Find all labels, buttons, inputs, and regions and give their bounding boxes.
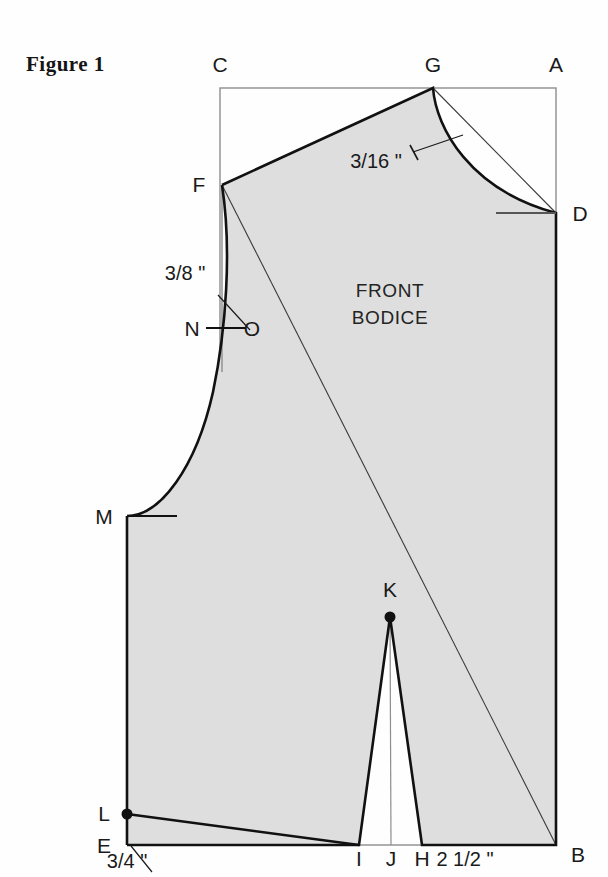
vertex-label-o: O [244,317,260,340]
dimension-label-hem-rise: 3/4 " [107,850,147,872]
vertex-label-k: K [383,578,397,601]
vertex-label-n: N [184,317,199,340]
front-bodice-shape [127,88,556,845]
vertex-label-j: J [386,847,397,870]
vertex-label-b: B [571,843,585,866]
dimension-label-shoulder-ease: 3/16 " [350,150,402,172]
vertex-label-m: M [95,505,113,528]
vertex-label-f: F [193,173,206,196]
point-marker-l [122,809,133,820]
vertex-label-c: C [212,53,227,76]
figure-container: Figure 1 [0,0,608,877]
pattern-drawing: FRONT BODICE ABCDEFGHIJKLMNO 3/16 "3/8 "… [0,0,608,877]
dimension-label-dart-to-side: 2 1/2 " [436,848,493,870]
piece-name-line-1: FRONT [356,280,424,301]
dimension-label-armhole-offset: 3/8 " [165,262,205,284]
vertex-label-l: L [98,802,110,825]
vertex-label-d: D [572,202,587,225]
point-marker-k [385,612,396,623]
vertex-label-i: I [356,847,362,870]
piece-name-line-2: BODICE [352,307,428,328]
vertex-label-g: G [425,53,441,76]
vertex-label-h: H [414,847,429,870]
vertex-label-a: A [549,53,563,76]
dart-center-line [390,617,391,845]
